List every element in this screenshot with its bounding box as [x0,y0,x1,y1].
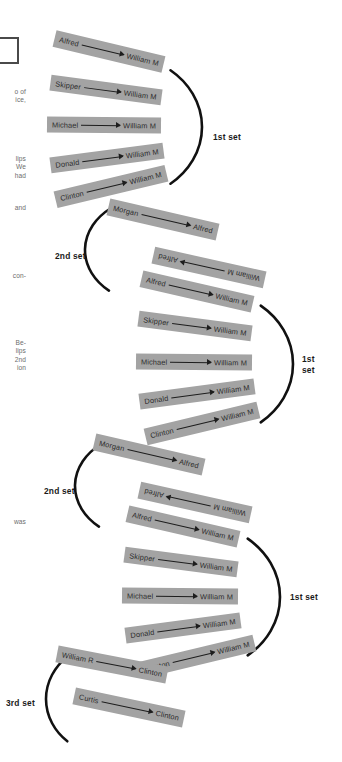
relation-slip: MichaelWilliam M [122,587,238,604]
slip-arrow-icon [167,496,211,507]
relation-slip: DonaldWilliam M [124,612,241,643]
slip-source-name: Donald [55,157,80,169]
relation-slip: ClintonWilliam M [144,402,261,446]
slip-target-name: William M [216,383,250,396]
relation-slip: AlfredWilliam M [53,30,166,73]
slip-target-name: William M [126,51,160,67]
slip-arrow-icon [181,261,225,272]
set-bracket-arc [46,657,67,742]
slip-target-name: William M [214,358,247,367]
slip-arrow-icon [86,182,126,193]
slip-arrow-icon [101,701,152,713]
slip-arrow-icon [82,44,124,55]
slip-arrow-icon [155,519,199,530]
relation-slip: CurtisClinton [72,688,185,728]
slip-source-name: Clinton [149,426,174,440]
slip-arrow-icon [141,214,190,226]
slip-source-name: William M [213,502,247,518]
slip-target-name: William M [125,147,159,160]
slip-arrow-icon [170,361,211,362]
slip-source-name: Alfred [131,510,152,523]
slip-target-name: William M [199,560,233,573]
slip-arrow-icon [157,625,200,632]
relation-slip: MichaelWilliam M [47,117,161,134]
relation-slip: SkipperWilliam M [123,547,238,578]
set-label: 1st set [302,354,315,375]
relation-slip: MorganAlfred [107,199,220,241]
slip-source-name: Skipper [129,551,156,563]
slip-arrow-icon [96,661,136,670]
slip-target-name: Alfred [157,252,178,265]
slip-sorting-figure: o of ice,lips We hadandcon-Be- lips 2nd … [0,0,342,762]
slip-arrow-icon [172,652,214,663]
slip-source-name: Curtis [78,692,99,705]
slip-target-name: William M [202,617,236,630]
margin-text-fragment: Be- lips 2nd ion [0,339,26,373]
set-bracket-arc [75,444,101,526]
slip-target-name: William M [220,407,254,423]
slip-target-name: William M [123,88,157,101]
slip-source-name: Alfred [58,35,79,48]
slip-target-name: Clinton [138,665,163,678]
margin-text-fragment: lips We had [0,155,26,180]
slip-arrow-icon [127,449,176,461]
slip-arrow-icon [84,87,121,93]
slip-target-name: Alfred [192,222,213,235]
slip-source-name: Donald [130,627,155,639]
slip-source-name: Morgan [112,204,139,219]
set-bracket-arcs [0,0,342,762]
slip-source-name: Michael [127,591,153,600]
slip-source-name: Skipper [55,79,82,91]
slip-arrow-icon [172,322,211,328]
slip-target-name: William M [129,170,163,186]
slip-target-name: William M [215,291,249,307]
slip-target-name: William M [216,640,250,656]
slip-source-name: Michael [52,120,78,129]
slip-arrow-icon [171,391,214,398]
set-label: 2nd set [55,251,86,262]
slip-source-name: William R [61,650,94,665]
relation-slip: William RClinton [55,645,168,683]
slip-arrow-icon [82,155,123,161]
slip-target-name: Alfred [178,457,199,470]
relation-slip: MichaelWilliam M [136,353,252,370]
slip-arrow-icon [169,284,213,295]
relation-slip: SkipperWilliam M [49,75,162,105]
slip-arrow-icon [156,595,197,596]
set-bracket-arc [261,306,293,423]
slip-target-name: Alfred [143,487,164,500]
slip-target-name: William M [201,526,235,542]
slip-arrow-icon [176,419,218,430]
relation-slip: DonaldWilliam M [138,378,255,409]
slip-target-name: William M [123,121,156,130]
set-label: 1st set [213,132,241,143]
slip-source-name: Donald [144,393,169,405]
slip-arrow-icon [158,558,197,564]
set-bracket-arc [170,70,202,183]
margin-text-fragment: and [0,204,26,212]
slip-target-name: William M [213,324,247,337]
margin-text-fragment: o of ice, [0,88,26,105]
slip-source-name: Michael [141,357,167,366]
slip-source-name: Clinton [59,189,84,203]
slip-source-name: Skipper [143,315,170,327]
slip-arrow-icon [81,124,120,125]
margin-text-fragment: con- [0,272,26,280]
set-label: 2nd set [44,486,75,497]
slip-source-name: Alfred [145,275,166,288]
slip-target-name: William M [200,592,233,601]
slip-source-name: William M [227,267,261,283]
relation-slip: SkipperWilliam M [137,311,252,342]
slip-target-name: Clinton [155,709,180,723]
set-label: 3rd set [6,698,35,709]
set-label: 1st set [290,592,318,603]
set-bracket-arc [85,208,111,290]
cut-off-box [0,37,19,64]
margin-text-fragment: was [0,518,26,526]
slip-source-name: Morgan [98,439,125,454]
